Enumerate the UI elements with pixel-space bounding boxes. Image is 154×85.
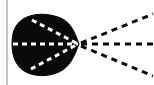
figure-container: Directional lobe pattern with converging… bbox=[0, 0, 154, 85]
figure-canvas bbox=[0, 0, 154, 85]
